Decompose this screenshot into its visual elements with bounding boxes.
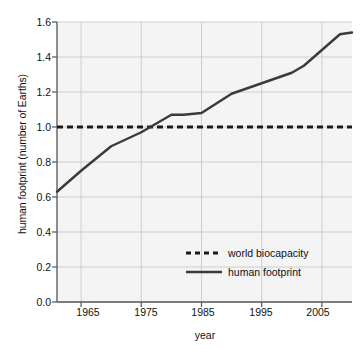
x-tick-label: 1985 xyxy=(181,306,225,318)
y-tick-label: 1.6 xyxy=(23,16,51,28)
y-axis-tick-labels: 0.0 0.2 0.4 0.6 0.8 1.0 1.2 1.4 1.6 xyxy=(21,0,51,349)
legend-label-world-biocapacity: world biocapacity xyxy=(227,247,309,259)
y-tick-label: 0.2 xyxy=(23,261,51,273)
y-tick-label: 0.6 xyxy=(23,191,51,203)
legend-label-human-footprint: human footprint xyxy=(228,266,301,278)
y-tick-label: 1.0 xyxy=(23,121,51,133)
x-tick-label: 1975 xyxy=(124,306,168,318)
chart-figure: human footprint (number of Earths) year … xyxy=(0,0,362,349)
y-tick-label: 1.2 xyxy=(23,86,51,98)
y-tick-label: 0.0 xyxy=(23,296,51,308)
y-tick-label: 0.8 xyxy=(23,156,51,168)
y-tick-label: 0.4 xyxy=(23,226,51,238)
x-tick-label: 2005 xyxy=(296,306,340,318)
plot-canvas: world biocapacity human footprint xyxy=(0,0,362,349)
x-axis-label: year xyxy=(57,329,353,341)
y-tick-label: 1.4 xyxy=(23,51,51,63)
x-tick-label: 1965 xyxy=(66,306,110,318)
x-tick-label: 1995 xyxy=(239,306,283,318)
